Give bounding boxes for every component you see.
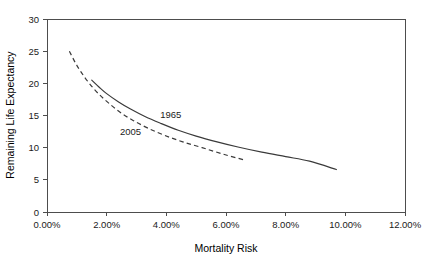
- series-label-2005: 2005: [120, 126, 141, 137]
- x-tick-label: 2.00%: [93, 219, 120, 230]
- series-label-1965: 1965: [160, 109, 181, 120]
- y-tick-label: 30: [28, 14, 39, 25]
- y-tick-label: 0: [34, 207, 39, 218]
- y-tick-label: 5: [34, 174, 39, 185]
- y-tick-label: 20: [28, 78, 39, 89]
- x-tick-label: 0.00%: [34, 219, 61, 230]
- chart-container: 0.00%2.00%4.00%6.00%8.00%10.00%12.00% 05…: [0, 0, 436, 262]
- x-tick-label: 4.00%: [153, 219, 180, 230]
- y-tick-label: 10: [28, 142, 39, 153]
- mortality-risk-life-expectancy-chart: 0.00%2.00%4.00%6.00%8.00%10.00%12.00% 05…: [0, 0, 436, 262]
- x-tick-label: 10.00%: [329, 219, 362, 230]
- y-tick-label: 25: [28, 46, 39, 57]
- y-tick-label: 15: [28, 110, 39, 121]
- x-tick-label: 6.00%: [213, 219, 240, 230]
- x-axis-title: Mortality Risk: [194, 242, 258, 254]
- x-tick-label: 8.00%: [272, 219, 299, 230]
- y-axis-title: Remaining Life Expectancy: [4, 51, 16, 179]
- x-tick-label: 12.00%: [389, 219, 422, 230]
